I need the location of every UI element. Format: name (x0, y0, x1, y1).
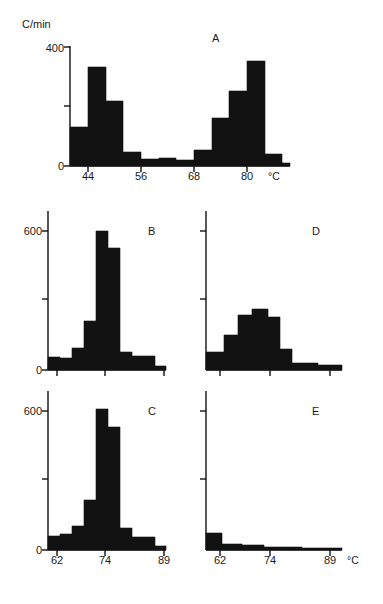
panel-a-title: A (212, 32, 220, 44)
panel-d-plot (192, 205, 383, 380)
panel-c-xtick-62: 62 (51, 554, 63, 566)
panel-a-histogram (70, 61, 290, 166)
panel-e-plot (192, 385, 383, 575)
panel-e-title: E (312, 405, 320, 417)
figure-caption (0, 590, 383, 604)
y-axis-unit-label: C/min (22, 18, 51, 30)
panel-c-title: C (148, 405, 156, 417)
panel-c-xtick-89: 89 (158, 554, 170, 566)
panel-c-ytick-600: 600 (8, 405, 42, 417)
panel-d-title: D (312, 225, 320, 237)
panel-d-histogram (206, 309, 342, 370)
panel-c-xtick-74: 74 (99, 554, 111, 566)
panel-b-ytick-0: 0 (8, 364, 42, 376)
panel-c-ytick-0: 0 (8, 544, 42, 556)
panel-e: E 62 74 89 °C (192, 385, 383, 575)
panel-e-xtick-89: 89 (324, 554, 336, 566)
panel-b-histogram (48, 231, 166, 370)
panel-a-xtick-80: 80 (241, 170, 253, 182)
panel-e-xtick-74: 74 (264, 554, 276, 566)
panel-a-ytick-0: 0 (34, 160, 64, 172)
panel-b-title: B (148, 225, 156, 237)
panel-b: B 600 0 (0, 205, 192, 380)
panel-a: C/min A 400 0 44 56 68 80 °C (0, 18, 383, 200)
panel-e-xtick-62: 62 (214, 554, 226, 566)
panel-a-xtick-56: 56 (135, 170, 147, 182)
panel-a-xtick-68: 68 (188, 170, 200, 182)
panel-a-xtick-44: 44 (82, 170, 94, 182)
panel-e-x-axis-unit: °C (347, 554, 359, 566)
panel-c-histogram (48, 409, 166, 550)
panel-a-ytick-400: 400 (34, 42, 64, 54)
panel-c: C 600 0 62 74 89 (0, 385, 192, 575)
panel-b-ytick-600: 600 (8, 225, 42, 237)
panel-d: D (192, 205, 383, 380)
panel-e-axes (200, 391, 342, 556)
panel-a-x-axis-unit: °C (268, 170, 280, 182)
panel-e-histogram (206, 533, 342, 550)
histogram-figure: C/min A 400 0 44 56 68 80 °C B 6 (0, 0, 383, 604)
